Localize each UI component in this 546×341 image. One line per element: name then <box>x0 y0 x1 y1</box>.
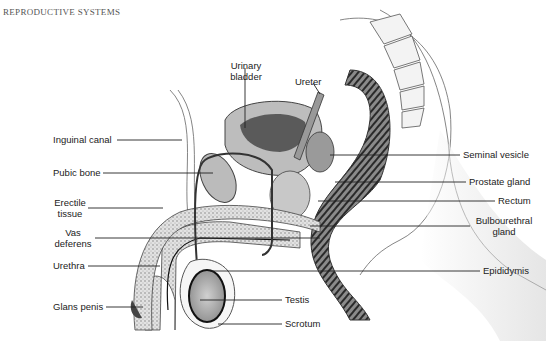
label-epididymis: Epididymis <box>483 265 529 276</box>
label-ureter: Ureter <box>295 76 321 87</box>
label-inguinal-canal: Inguinal canal <box>53 134 112 145</box>
label-prostate-gland: Prostate gland <box>469 176 530 187</box>
label-testis: Testis <box>285 294 309 305</box>
label-bulbourethral-gland: Bulbourethral gland <box>470 215 538 237</box>
label-urinary-bladder: Urinary bladder <box>226 60 266 82</box>
label-pubic-bone: Pubic bone <box>53 167 101 178</box>
label-urethra: Urethra <box>53 260 85 271</box>
diagram-page: REPRODUCTIVE SYSTEMS <box>0 0 546 341</box>
label-scrotum: Scrotum <box>285 318 320 329</box>
label-vas-deferens: Vas deferens <box>53 227 93 249</box>
label-glans-penis: Glans penis <box>53 301 103 312</box>
label-rectum: Rectum <box>498 195 531 206</box>
testis-shape <box>189 270 225 322</box>
rectum-shape <box>311 70 390 320</box>
label-seminal-vesicle: Seminal vesicle <box>463 149 529 160</box>
label-erectile-tissue: Erectile tissue <box>53 197 87 219</box>
